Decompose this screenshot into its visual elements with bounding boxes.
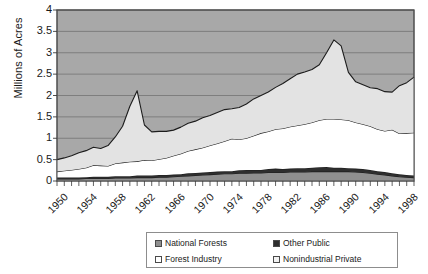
- chart-legend: National Forests Other Public Forest Ind…: [146, 232, 398, 268]
- legend-swatch-other-public: [273, 240, 280, 247]
- x-tick-label: 1970: [191, 190, 216, 215]
- legend-swatch-forest-industry: [155, 256, 162, 263]
- x-tick-label: 1998: [395, 190, 420, 215]
- x-tick-label: 1950: [45, 190, 70, 215]
- legend-item-other-public: Other Public: [273, 238, 330, 248]
- area-chart: Millions of Acres 00.511.522.533.54 1950…: [0, 0, 428, 274]
- x-tick-label: 1958: [103, 190, 128, 215]
- x-tick-label: 1990: [336, 190, 361, 215]
- x-tick-label: 1994: [366, 190, 391, 215]
- legend-swatch-nonindustrial-private: [273, 256, 280, 263]
- x-tick-label: 1982: [278, 190, 303, 215]
- legend-label-forest-industry: Forest Industry: [165, 254, 222, 264]
- x-tick-label: 1954: [74, 190, 99, 215]
- x-tick-label: 1962: [132, 190, 157, 215]
- legend-label-other-public: Other Public: [283, 238, 330, 248]
- legend-label-national-forests: National Forests: [165, 238, 227, 248]
- x-tick-label: 1966: [162, 190, 187, 215]
- legend-swatch-national-forests: [155, 240, 162, 247]
- x-tick-label: 1986: [307, 190, 332, 215]
- x-tick-label: 1974: [220, 190, 245, 215]
- legend-item-national-forests: National Forests: [155, 238, 227, 248]
- legend-item-nonindustrial-private: Nonindustrial Private: [273, 254, 361, 264]
- legend-label-nonindustrial-private: Nonindustrial Private: [283, 254, 361, 264]
- x-tick-label: 1978: [249, 190, 274, 215]
- legend-item-forest-industry: Forest Industry: [155, 254, 222, 264]
